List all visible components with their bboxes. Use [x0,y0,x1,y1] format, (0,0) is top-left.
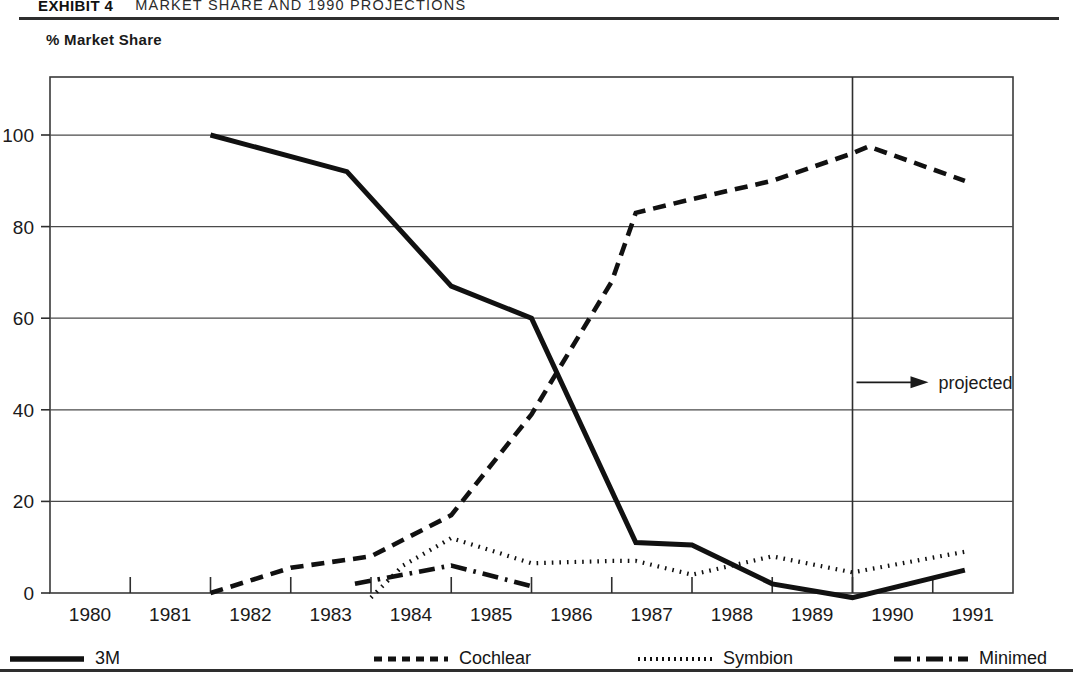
legend-item-3m: 3M [8,648,120,669]
x-axis-tick-label: 1983 [310,604,352,625]
projected-arrow-head [911,376,929,388]
legend-swatch-dotted-icon [636,653,714,665]
plot-frame [50,77,1013,593]
legend-label: Cochlear [459,648,531,669]
y-axis-tick-label: 20 [13,491,34,512]
x-axis-tick-label: 1991 [952,604,994,625]
x-axis-tick-label: 1980 [69,604,111,625]
x-axis-tick-label: 1989 [791,604,833,625]
x-axis-tick-label: 1982 [229,604,271,625]
x-axis-tick-label: 1986 [550,604,592,625]
y-axis-tick-label: 40 [13,400,34,421]
legend-swatch-dashdot-icon [892,653,970,665]
legend-swatch-dashed-icon [372,653,450,665]
projected-annotation-label: projected [939,373,1013,393]
legend-swatch-solid-icon [8,653,86,665]
legend-label: 3M [95,648,120,669]
series-line-minimed [355,566,532,587]
legend-label: Minimed [979,648,1047,669]
y-axis-tick-label: 60 [13,308,34,329]
legend-divider [0,669,1073,672]
y-axis-tick-label: 0 [23,583,34,604]
y-axis-tick-label: 80 [13,217,34,238]
legend-item-symbion: Symbion [636,648,793,669]
legend-label: Symbion [723,648,793,669]
chart-svg: 0204060801001980198119821983198419851986… [0,0,1073,673]
x-axis-tick-label: 1981 [149,604,191,625]
x-axis-tick-label: 1988 [711,604,753,625]
legend-item-cochlear: Cochlear [372,648,531,669]
x-axis-tick-label: 1984 [390,604,433,625]
x-axis-tick-label: 1985 [470,604,512,625]
legend-item-minimed: Minimed [892,648,1047,669]
series-line-cochlear [211,146,965,593]
x-axis-tick-label: 1987 [631,604,673,625]
y-axis-tick-label: 100 [2,125,34,146]
series-line-3m [211,135,965,598]
chart-plot-area: 0204060801001980198119821983198419851986… [0,0,1073,673]
x-axis-tick-label: 1990 [871,604,913,625]
